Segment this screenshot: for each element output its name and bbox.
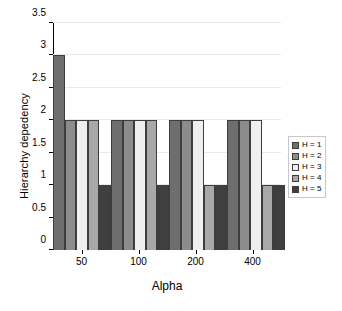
legend-item[interactable]: H = 4 — [292, 173, 321, 183]
legend-item[interactable]: H = 2 — [292, 151, 321, 161]
plot-area: 00.511.522.533.5 — [53, 23, 281, 250]
legend-item[interactable]: H = 5 — [292, 184, 321, 194]
bar-group-bars — [111, 23, 169, 250]
bar[interactable] — [215, 185, 227, 250]
bar[interactable] — [250, 120, 262, 250]
bar[interactable] — [262, 185, 274, 250]
x-axis-tick-labels: 50100200400 — [53, 256, 281, 267]
x-tick-label: 50 — [53, 256, 110, 267]
bar-group-bars — [53, 23, 111, 250]
legend-swatch-icon — [292, 164, 299, 171]
y-tick-label: 3 — [40, 40, 46, 50]
bar-group — [111, 23, 169, 250]
bar[interactable] — [111, 120, 123, 250]
bar[interactable] — [146, 120, 158, 250]
x-axis-title: Alpha — [53, 279, 281, 293]
bar-series-container — [53, 23, 281, 250]
bar-group — [53, 23, 111, 250]
bar[interactable] — [239, 120, 251, 250]
bar-group — [227, 23, 285, 250]
bar[interactable] — [157, 185, 169, 250]
y-tick-label: 2 — [40, 105, 46, 115]
bar[interactable] — [134, 120, 146, 250]
legend-item[interactable]: H = 1 — [292, 140, 321, 150]
bar[interactable] — [227, 120, 239, 250]
x-tick-mark — [253, 250, 254, 254]
y-tick-label: 1 — [40, 170, 46, 180]
bar[interactable] — [123, 120, 135, 250]
legend-label: H = 3 — [302, 163, 321, 171]
legend-item[interactable]: H = 3 — [292, 162, 321, 172]
legend-swatch-icon — [292, 153, 299, 160]
legend-label: H = 1 — [302, 141, 321, 149]
x-tick-mark — [82, 250, 83, 254]
legend-label: H = 5 — [302, 185, 321, 193]
x-tick-label: 400 — [224, 256, 281, 267]
y-tick-label: 1.5 — [32, 138, 46, 148]
y-axis-title: Hierarchy depedency — [18, 66, 30, 226]
y-tick-label: 3.5 — [32, 8, 46, 18]
bar[interactable] — [169, 120, 181, 250]
y-tick-label: 2.5 — [32, 73, 46, 83]
y-tick-label: 0 — [40, 235, 46, 245]
bar-group-bars — [169, 23, 227, 250]
bar[interactable] — [273, 185, 285, 250]
chart-legend: H = 1H = 2H = 3H = 4H = 5 — [288, 136, 326, 198]
bar[interactable] — [88, 120, 100, 250]
x-tick-mark — [139, 250, 140, 254]
legend-label: H = 2 — [302, 152, 321, 160]
x-tick-mark — [196, 250, 197, 254]
bar[interactable] — [65, 120, 77, 250]
y-tick-label: 0.5 — [32, 203, 46, 213]
bar[interactable] — [204, 185, 216, 250]
bar[interactable] — [76, 120, 88, 250]
legend-swatch-icon — [292, 175, 299, 182]
legend-label: H = 4 — [302, 174, 321, 182]
bar[interactable] — [192, 120, 204, 250]
bar[interactable] — [181, 120, 193, 250]
bar-chart-figure: Hierarchy depedency 00.511.522.533.5 501… — [0, 0, 342, 311]
bar[interactable] — [53, 55, 65, 250]
bar-group-bars — [227, 23, 285, 250]
legend-swatch-icon — [292, 186, 299, 193]
x-tick-label: 100 — [110, 256, 167, 267]
x-tick-label: 200 — [167, 256, 224, 267]
bar[interactable] — [99, 185, 111, 250]
legend-swatch-icon — [292, 142, 299, 149]
bar-group — [169, 23, 227, 250]
